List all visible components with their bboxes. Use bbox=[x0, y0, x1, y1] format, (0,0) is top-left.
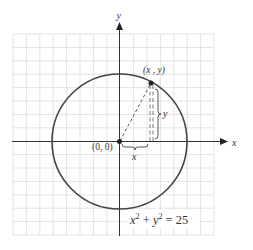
origin-point bbox=[117, 139, 122, 144]
equation-rhs: = 25 bbox=[162, 213, 188, 227]
x-axis-label: x bbox=[231, 137, 237, 148]
x-brace-icon bbox=[122, 144, 148, 150]
circle-diagram: x y y x (0, 0) (x , y) x2 + y2 = 25 bbox=[0, 0, 253, 250]
y-axis-arrow-icon bbox=[116, 22, 123, 30]
horizontal-leg-label: x bbox=[131, 151, 137, 162]
circle-point bbox=[149, 81, 154, 86]
y-axis-label: y bbox=[116, 10, 122, 21]
vertical-leg-label: y bbox=[162, 108, 168, 119]
equation-plus: + bbox=[140, 213, 153, 227]
grid bbox=[13, 34, 214, 235]
x-axis-arrow-icon bbox=[220, 138, 228, 145]
origin-label: (0, 0) bbox=[92, 142, 113, 153]
point-label: (x , y) bbox=[143, 65, 165, 76]
radius-dashed-line bbox=[120, 83, 151, 141]
